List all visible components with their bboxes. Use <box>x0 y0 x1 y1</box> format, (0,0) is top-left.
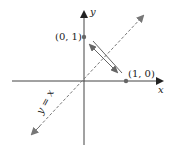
y-axis-label: y <box>89 6 96 17</box>
point-0-1-label: (0, 1) <box>55 31 82 42</box>
reflection-diagram: (0, 1) (1, 0) y x y = x <box>0 0 174 147</box>
x-axis-label: x <box>158 84 164 95</box>
point-1-0-label: (1, 0) <box>128 68 155 79</box>
point-1-0 <box>124 79 128 83</box>
point-0-1 <box>82 35 86 39</box>
reflection-line-upper <box>93 41 122 73</box>
line-y-equals-x-tail <box>32 126 40 134</box>
reflection-arrow <box>90 45 103 58</box>
line-label: y = x <box>34 87 57 116</box>
line-y-equals-x <box>36 16 143 130</box>
